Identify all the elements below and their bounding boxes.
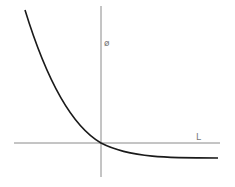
x-axis-label: L bbox=[196, 132, 201, 142]
diagram: ø L bbox=[0, 0, 235, 187]
y-axis-label: ø bbox=[104, 38, 110, 48]
curve bbox=[25, 10, 218, 158]
